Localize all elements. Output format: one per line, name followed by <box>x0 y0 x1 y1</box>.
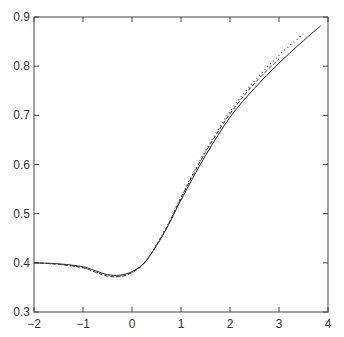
plot-frame <box>34 17 328 312</box>
x-tick-label: 1 <box>178 317 185 331</box>
y-tick-label: 0.4 <box>13 256 30 270</box>
x-tick-label: 2 <box>227 317 234 331</box>
y-tick-label: 0.6 <box>13 158 30 172</box>
y-tick-label: 0.7 <box>13 108 30 122</box>
x-tick-label: 4 <box>325 317 332 331</box>
y-tick-label: 0.9 <box>13 10 30 24</box>
x-tick-label: 3 <box>276 317 283 331</box>
series-line-dashed <box>34 59 279 277</box>
series-line-solid <box>34 26 321 276</box>
y-tick-label: 0.3 <box>13 305 30 319</box>
y-tick-label: 0.5 <box>13 207 30 221</box>
y-tick-label: 0.8 <box>13 59 30 73</box>
x-tick-label: −2 <box>27 317 41 331</box>
series-layer <box>34 26 321 277</box>
line-chart: −2−1012340.30.40.50.60.70.80.9 <box>0 0 344 337</box>
series-line-dotted <box>34 34 304 277</box>
axis-ticks <box>34 17 328 312</box>
x-tick-label: −1 <box>76 317 90 331</box>
x-tick-label: 0 <box>129 317 136 331</box>
